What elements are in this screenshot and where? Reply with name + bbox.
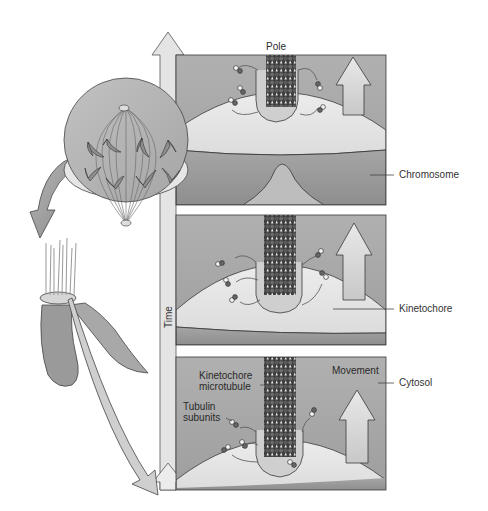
diagram-canvas [0, 0, 488, 511]
time-axis-label: Time [163, 306, 174, 328]
cytosol-label: Cytosol [399, 377, 432, 388]
diagram-stage: Pole Chromosome Kinetochore Cytosol Move… [0, 0, 488, 511]
panel-2 [176, 215, 386, 345]
panel-1 [176, 55, 386, 205]
tubulin-subunits-label-line1: Tubulin [183, 401, 215, 412]
tubulin-subunits-label-line2: subunits [183, 412, 220, 423]
kinetochore-microtubule-label-line1: Kinetochore [199, 370, 252, 381]
kinetochore-label: Kinetochore [399, 303, 452, 314]
chromosome-label: Chromosome [399, 169, 459, 180]
kinetochore-microtubule-label-line2: microtubule [199, 381, 251, 392]
movement-label: Movement [332, 365, 379, 376]
pole-label: Pole [266, 41, 286, 52]
